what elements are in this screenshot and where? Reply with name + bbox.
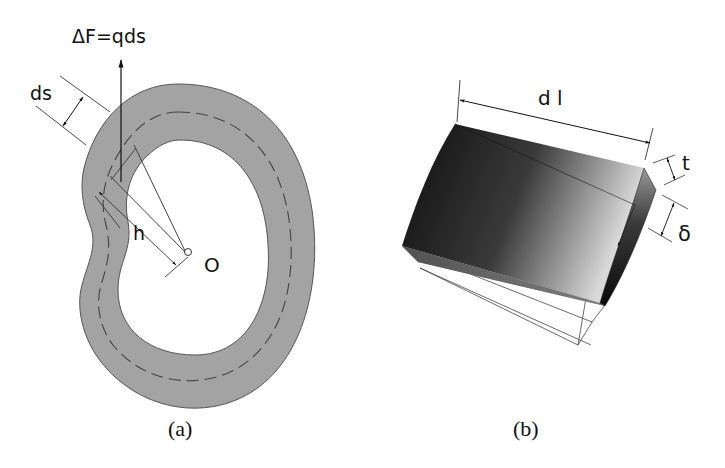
caption-a: (a) (168, 416, 192, 441)
ds-dimension (63, 97, 83, 126)
dl-label: d l (538, 86, 563, 110)
h-label: h (133, 222, 145, 244)
panel-b: d l t δ (b) (402, 80, 691, 441)
t-dimension (667, 158, 675, 180)
panel-a: ΔF=qds ds h O (a) (30, 25, 315, 441)
ds-label: ds (30, 82, 52, 104)
caption-b: (b) (513, 416, 539, 441)
force-label: ΔF=qds (72, 25, 146, 47)
figure-canvas: ΔF=qds ds h O (a) d (0, 0, 725, 468)
delta-dimension (661, 203, 674, 236)
origin-label: O (204, 253, 220, 277)
delta-label: δ (678, 222, 691, 246)
ring-cross-section (80, 84, 315, 408)
origin-point (185, 249, 192, 256)
t-label: t (682, 151, 690, 175)
